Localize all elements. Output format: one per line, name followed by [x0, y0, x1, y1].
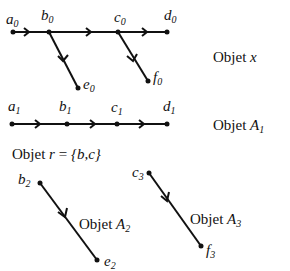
object-a1-graph [12, 120, 167, 128]
edge-c3-f3 [149, 173, 201, 246]
caption-object-a1: Objet A1 [213, 118, 264, 135]
label-d1: d1 [163, 99, 176, 116]
vertex-c0 [116, 30, 121, 35]
vertex-d1 [165, 122, 170, 127]
label-a1: a1 [8, 99, 21, 116]
vertex-e0 [76, 86, 81, 91]
vertex-c1 [115, 122, 120, 127]
vertex-a0 [11, 30, 16, 35]
vertex-b1 [65, 122, 70, 127]
vertex-b2 [38, 181, 43, 186]
caption-object-r: Objet r = {b,c} [12, 147, 101, 162]
caption-object-a3: Objet A3 [190, 212, 241, 229]
object-a3-graph [149, 173, 201, 246]
vertex-a1 [10, 122, 15, 127]
label-f0: f0 [153, 70, 162, 87]
vertex-d0 [165, 30, 170, 35]
label-c1: c1 [111, 100, 123, 117]
label-e2: e2 [104, 254, 116, 271]
label-b0: b0 [41, 8, 54, 25]
vertex-b0 [47, 30, 52, 35]
vertex-c3 [147, 171, 152, 176]
label-c3: c3 [132, 165, 144, 182]
label-c0: c0 [114, 10, 126, 27]
vertex-e2 [95, 258, 100, 263]
caption-object-a2: Objet A2 [79, 217, 130, 234]
edge-c0-f0 [118, 32, 148, 81]
caption-object-x: Objet x [213, 50, 257, 65]
label-b2: b2 [18, 172, 31, 189]
vertex-f3 [199, 244, 204, 249]
label-e0: e0 [83, 77, 95, 94]
label-b1: b1 [59, 99, 72, 116]
label-f3: f3 [206, 243, 215, 260]
label-a0: a0 [6, 12, 19, 29]
vertex-f0 [146, 79, 151, 84]
label-d0: d0 [164, 8, 177, 25]
